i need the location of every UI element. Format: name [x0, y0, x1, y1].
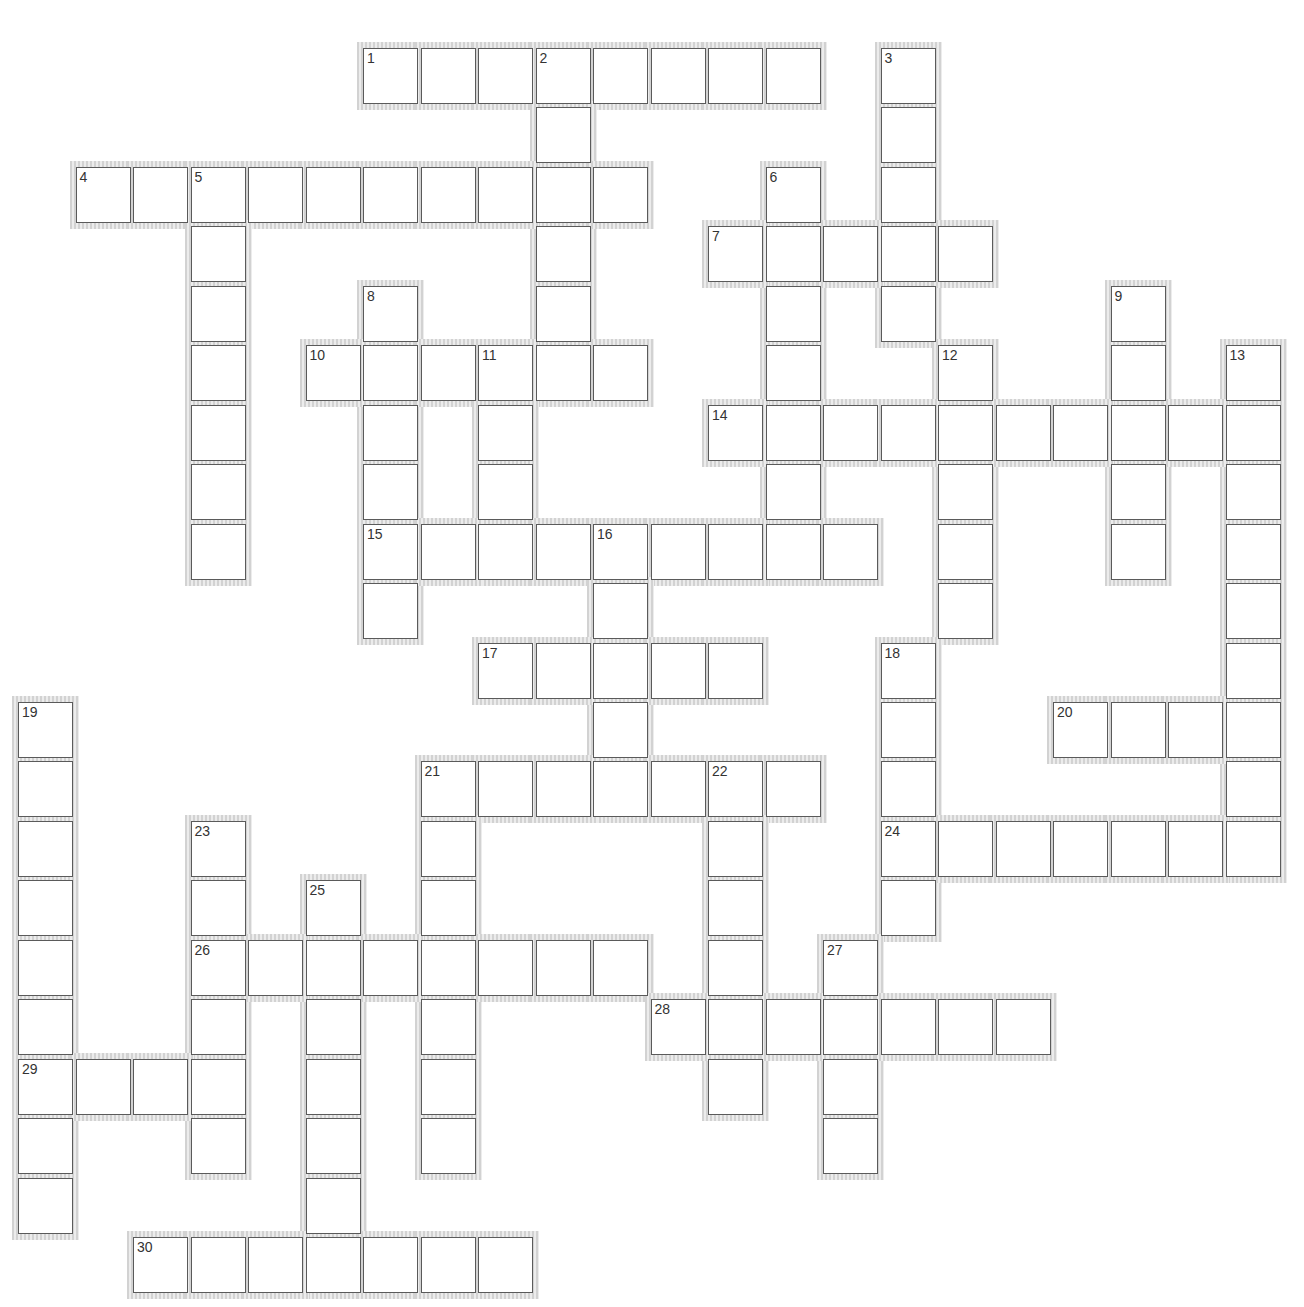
crossword-cell[interactable]: 20	[1053, 702, 1108, 758]
crossword-cell[interactable]	[996, 821, 1051, 877]
crossword-cell[interactable]	[766, 999, 821, 1055]
crossword-cell[interactable]	[1111, 405, 1166, 461]
crossword-cell[interactable]: 12	[938, 345, 993, 401]
crossword-cell[interactable]	[421, 345, 476, 401]
crossword-cell[interactable]	[1226, 583, 1281, 639]
crossword-cell[interactable]: 2	[536, 48, 591, 104]
crossword-cell[interactable]	[1226, 821, 1281, 877]
crossword-cell[interactable]	[191, 405, 246, 461]
crossword-cell[interactable]	[881, 761, 936, 817]
crossword-cell[interactable]	[306, 167, 361, 223]
crossword-cell[interactable]	[478, 405, 533, 461]
crossword-cell[interactable]	[651, 761, 706, 817]
crossword-cell[interactable]: 3	[881, 48, 936, 104]
crossword-cell[interactable]	[766, 48, 821, 104]
crossword-cell[interactable]	[306, 1118, 361, 1174]
crossword-cell[interactable]	[536, 286, 591, 342]
crossword-cell[interactable]	[593, 643, 648, 699]
crossword-cell[interactable]	[248, 167, 303, 223]
crossword-cell[interactable]	[191, 464, 246, 520]
crossword-cell[interactable]	[306, 1237, 361, 1293]
crossword-cell[interactable]	[536, 524, 591, 580]
crossword-cell[interactable]	[363, 167, 418, 223]
crossword-cell[interactable]: 1	[363, 48, 418, 104]
crossword-cell[interactable]	[823, 524, 878, 580]
crossword-cell[interactable]	[363, 1237, 418, 1293]
crossword-cell[interactable]	[766, 226, 821, 282]
crossword-cell[interactable]: 13	[1226, 345, 1281, 401]
crossword-cell[interactable]	[1111, 464, 1166, 520]
crossword-cell[interactable]	[938, 405, 993, 461]
crossword-cell[interactable]	[593, 940, 648, 996]
crossword-cell[interactable]	[938, 999, 993, 1055]
crossword-cell[interactable]	[823, 405, 878, 461]
crossword-cell[interactable]	[881, 999, 936, 1055]
crossword-cell[interactable]	[306, 940, 361, 996]
crossword-cell[interactable]	[363, 464, 418, 520]
crossword-cell[interactable]	[823, 1118, 878, 1174]
crossword-cell[interactable]	[938, 226, 993, 282]
crossword-cell[interactable]	[363, 940, 418, 996]
crossword-cell[interactable]	[881, 286, 936, 342]
crossword-cell[interactable]	[938, 464, 993, 520]
crossword-cell[interactable]	[651, 48, 706, 104]
crossword-cell[interactable]	[881, 226, 936, 282]
crossword-cell[interactable]	[881, 880, 936, 936]
crossword-cell[interactable]	[823, 999, 878, 1055]
crossword-cell[interactable]: 8	[363, 286, 418, 342]
crossword-cell[interactable]	[708, 48, 763, 104]
crossword-cell[interactable]: 15	[363, 524, 418, 580]
crossword-cell[interactable]	[938, 583, 993, 639]
crossword-cell[interactable]: 25	[306, 880, 361, 936]
crossword-cell[interactable]	[76, 1059, 131, 1115]
crossword-cell[interactable]	[248, 940, 303, 996]
crossword-cell[interactable]: 22	[708, 761, 763, 817]
crossword-cell[interactable]: 16	[593, 524, 648, 580]
crossword-cell[interactable]: 7	[708, 226, 763, 282]
crossword-cell[interactable]	[421, 1118, 476, 1174]
crossword-cell[interactable]	[1053, 405, 1108, 461]
crossword-cell[interactable]	[191, 286, 246, 342]
crossword-cell[interactable]	[478, 464, 533, 520]
crossword-cell[interactable]	[363, 583, 418, 639]
crossword-cell[interactable]	[1111, 524, 1166, 580]
crossword-cell[interactable]: 9	[1111, 286, 1166, 342]
crossword-cell[interactable]	[1226, 702, 1281, 758]
crossword-cell[interactable]: 5	[191, 167, 246, 223]
crossword-cell[interactable]	[478, 167, 533, 223]
crossword-cell[interactable]	[708, 821, 763, 877]
crossword-cell[interactable]	[593, 761, 648, 817]
crossword-cell[interactable]: 18	[881, 643, 936, 699]
crossword-cell[interactable]: 6	[766, 167, 821, 223]
crossword-cell[interactable]: 10	[306, 345, 361, 401]
crossword-cell[interactable]: 29	[18, 1059, 73, 1115]
crossword-cell[interactable]	[1226, 761, 1281, 817]
crossword-cell[interactable]	[18, 940, 73, 996]
crossword-cell[interactable]	[421, 1059, 476, 1115]
crossword-cell[interactable]	[766, 464, 821, 520]
crossword-cell[interactable]	[766, 405, 821, 461]
crossword-cell[interactable]	[191, 999, 246, 1055]
crossword-cell[interactable]	[18, 821, 73, 877]
crossword-cell[interactable]	[133, 167, 188, 223]
crossword-cell[interactable]	[248, 1237, 303, 1293]
crossword-cell[interactable]	[536, 940, 591, 996]
crossword-cell[interactable]	[593, 167, 648, 223]
crossword-cell[interactable]	[881, 167, 936, 223]
crossword-cell[interactable]	[651, 643, 706, 699]
crossword-cell[interactable]	[536, 345, 591, 401]
crossword-cell[interactable]	[938, 524, 993, 580]
crossword-cell[interactable]	[191, 226, 246, 282]
crossword-cell[interactable]: 23	[191, 821, 246, 877]
crossword-cell[interactable]	[708, 940, 763, 996]
crossword-cell[interactable]	[306, 999, 361, 1055]
crossword-cell[interactable]	[536, 107, 591, 163]
crossword-cell[interactable]: 11	[478, 345, 533, 401]
crossword-cell[interactable]	[996, 999, 1051, 1055]
crossword-cell[interactable]	[478, 1237, 533, 1293]
crossword-cell[interactable]	[363, 405, 418, 461]
crossword-cell[interactable]	[766, 524, 821, 580]
crossword-cell[interactable]	[306, 1178, 361, 1234]
crossword-cell[interactable]	[421, 1237, 476, 1293]
crossword-cell[interactable]	[766, 286, 821, 342]
